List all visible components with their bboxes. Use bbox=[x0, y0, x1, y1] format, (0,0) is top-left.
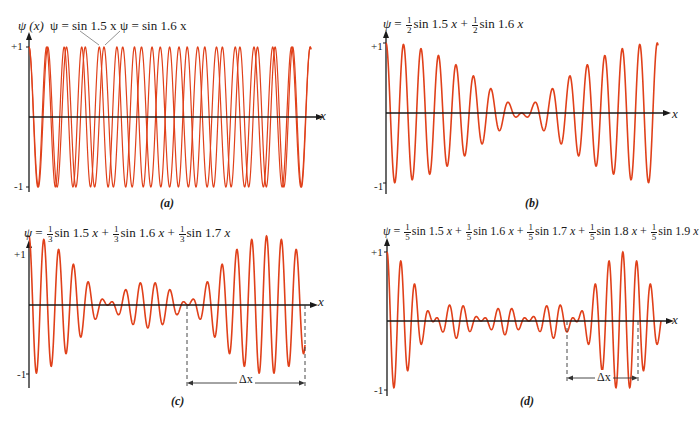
fraction-fifth: 15 bbox=[589, 223, 596, 242]
term-sin18: sin 1.8 bbox=[597, 224, 629, 238]
term-sin15: sin 1.5 bbox=[412, 224, 444, 238]
arrow-left-icon bbox=[187, 381, 193, 386]
denominator: 3 bbox=[179, 235, 186, 244]
c-delta-x-label: Δx bbox=[237, 372, 255, 387]
plus-sign: + bbox=[455, 224, 462, 238]
term-sin15: sin 1.5 bbox=[413, 16, 448, 31]
arrow-right-icon bbox=[632, 376, 638, 381]
fraction-third: 13 bbox=[113, 225, 120, 244]
term-sin15: sin 1.5 bbox=[54, 225, 89, 240]
a-annotation-1-text: ψ = sin 1.5 x bbox=[50, 18, 116, 33]
var-x: x bbox=[447, 224, 452, 238]
c-ytick-minus1: -1 bbox=[17, 368, 26, 380]
equals-sign: = bbox=[393, 224, 400, 238]
denominator: 3 bbox=[113, 235, 120, 244]
fraction-fifth: 15 bbox=[527, 223, 534, 242]
panel-b: ψ = 12sin 1.5 x + 12sin 1.6 x +1 -1 x (b… bbox=[345, 0, 691, 210]
equals-sign: = bbox=[394, 16, 401, 31]
term-sin16: sin 1.6 bbox=[120, 225, 155, 240]
fraction-half: 12 bbox=[406, 16, 413, 35]
psi-x-label: ψ (x) bbox=[18, 18, 44, 33]
x-axis-arrow-icon bbox=[310, 302, 318, 308]
a-annotation-2: ψ = sin 1.6 x bbox=[120, 19, 186, 32]
denominator: 5 bbox=[527, 233, 534, 242]
var-x: x bbox=[570, 224, 575, 238]
fraction-fifth: 15 bbox=[466, 223, 473, 242]
fraction-fifth: 15 bbox=[651, 223, 658, 242]
psi-symbol: ψ bbox=[383, 16, 391, 31]
equals-sign: = bbox=[35, 225, 42, 240]
psi-symbol: ψ bbox=[383, 224, 390, 238]
plus-sign: + bbox=[578, 224, 585, 238]
var-x: x bbox=[92, 225, 98, 240]
denominator: 5 bbox=[404, 233, 411, 242]
denominator: 2 bbox=[406, 26, 413, 35]
psi-symbol: ψ bbox=[24, 225, 32, 240]
term-sin17: sin 1.7 bbox=[535, 224, 567, 238]
c-formula: ψ = 13sin 1.5 x + 13sin 1.6 x + 13sin 1.… bbox=[24, 225, 230, 244]
var-x: x bbox=[508, 224, 513, 238]
a-caption: (a) bbox=[160, 196, 174, 211]
b-formula: ψ = 12sin 1.5 x + 12sin 1.6 x bbox=[383, 16, 523, 35]
var-x: x bbox=[224, 225, 230, 240]
b-xlabel: x bbox=[672, 106, 678, 122]
plus-sign: + bbox=[167, 225, 174, 240]
a-annotation-2-text: ψ = sin 1.6 x bbox=[120, 18, 186, 33]
d-ytick-minus1: -1 bbox=[374, 384, 383, 396]
plot-d bbox=[345, 220, 691, 420]
b-ytick-plus1: +1 bbox=[371, 40, 383, 52]
plus-sign: + bbox=[640, 224, 647, 238]
fraction-fifth: 15 bbox=[404, 223, 411, 242]
a-annotation-1: ψ = sin 1.5 x bbox=[50, 19, 116, 32]
plus-sign: + bbox=[517, 224, 524, 238]
term-sin16: sin 1.6 bbox=[473, 224, 505, 238]
d-caption: (d) bbox=[520, 394, 534, 409]
var-x: x bbox=[517, 16, 523, 31]
y-axis-arrow-icon bbox=[26, 32, 32, 40]
c-ytick-plus1: +1 bbox=[14, 248, 26, 260]
d-formula: ψ = 15sin 1.5 x + 15sin 1.6 x + 15sin 1.… bbox=[383, 223, 699, 242]
arrow-right-icon bbox=[299, 381, 305, 386]
x-axis-arrow-icon bbox=[663, 110, 671, 116]
panel-c: ψ = 13sin 1.5 x + 13sin 1.6 x + 13sin 1.… bbox=[0, 220, 345, 420]
plus-sign: + bbox=[460, 16, 467, 31]
arrow-left-icon bbox=[567, 376, 573, 381]
a-ylabel: ψ (x) bbox=[18, 19, 44, 32]
denominator: 5 bbox=[589, 233, 596, 242]
a-ytick-plus1: +1 bbox=[11, 40, 23, 52]
term-sin19: sin 1.9 bbox=[658, 224, 690, 238]
plot-c bbox=[0, 220, 345, 420]
curve-d-0 bbox=[387, 252, 661, 388]
c-caption: (c) bbox=[171, 394, 184, 409]
var-x: x bbox=[632, 224, 637, 238]
c-xlabel: x bbox=[318, 294, 324, 310]
panel-d: ψ = 15sin 1.5 x + 15sin 1.6 x + 15sin 1.… bbox=[345, 220, 691, 420]
a-xlabel: x bbox=[320, 108, 326, 124]
b-caption: (b) bbox=[525, 196, 539, 211]
panel-a: ψ (x) ψ = sin 1.5 x ψ = sin 1.6 x +1 -1 … bbox=[0, 0, 345, 210]
d-delta-x-label: Δx bbox=[595, 370, 613, 385]
denominator: 3 bbox=[47, 235, 54, 244]
var-x: x bbox=[451, 16, 457, 31]
term-sin17: sin 1.7 bbox=[187, 225, 222, 240]
a-ytick-minus1: -1 bbox=[14, 180, 23, 192]
fraction-half: 12 bbox=[472, 16, 479, 35]
var-x: x bbox=[158, 225, 164, 240]
term-sin16: sin 1.6 bbox=[479, 16, 514, 31]
b-ytick-minus1: -1 bbox=[374, 180, 383, 192]
fraction-third: 13 bbox=[47, 225, 54, 244]
var-x: x bbox=[693, 224, 698, 238]
d-ytick-plus1: +1 bbox=[371, 246, 383, 258]
denominator: 2 bbox=[472, 26, 479, 35]
denominator: 5 bbox=[466, 233, 473, 242]
annotation-leader-2 bbox=[105, 31, 120, 45]
denominator: 5 bbox=[651, 233, 658, 242]
d-xlabel: x bbox=[672, 312, 678, 328]
plus-sign: + bbox=[101, 225, 108, 240]
fraction-third: 13 bbox=[179, 225, 186, 244]
annotation-leader-1 bbox=[80, 31, 99, 45]
